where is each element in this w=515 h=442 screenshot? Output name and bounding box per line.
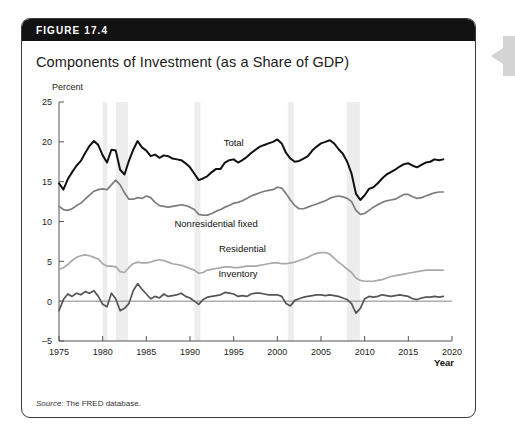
series-label-inventory: Inventory <box>218 268 257 279</box>
y-tick-label: 20 <box>42 137 52 147</box>
figure-number-bar: FIGURE 17.4 <box>22 19 475 41</box>
series-annotations-group: TotalNonresidential fixedResidentialInve… <box>174 137 265 279</box>
x-tick-labels-group: 1975198019851990199520002005201020152020 <box>49 347 462 357</box>
figure-source-note: Source: The FRED database. <box>36 399 141 408</box>
x-tick-label: 2000 <box>267 347 287 357</box>
x-tick-label: 1980 <box>93 347 113 357</box>
figure-number-label: FIGURE 17.4 <box>36 25 108 36</box>
investment-line-chart: TotalNonresidential fixedResidentialInve… <box>22 94 476 379</box>
y-tick-label: 15 <box>42 177 52 187</box>
source-text: The FRED database. <box>64 399 141 408</box>
y-tick-label: 10 <box>42 217 52 227</box>
x-tick-label: 2020 <box>442 347 462 357</box>
side-arrow-icon[interactable] <box>487 36 515 76</box>
source-prefix: Source: <box>36 399 64 408</box>
y-tick-label: 0 <box>47 297 52 307</box>
x-tick-label: 2005 <box>311 347 331 357</box>
y-tick-label: 25 <box>42 97 52 107</box>
figure-container: FIGURE 17.4 Components of Investment (as… <box>21 18 476 418</box>
x-tick-label: 1975 <box>49 347 69 357</box>
x-axis-title: Year <box>434 357 454 368</box>
y-tick-label: –5 <box>42 336 52 346</box>
series-label-total: Total <box>224 137 244 148</box>
y-tick-label: 5 <box>47 257 52 267</box>
y-tick-labels-group: 2520151050–5 <box>42 97 52 346</box>
x-tick-label: 1995 <box>224 347 244 357</box>
figure-title: Components of Investment (as a Share of … <box>36 54 475 70</box>
x-tick-label: 1990 <box>180 347 200 357</box>
chart-plot-area: TotalNonresidential fixedResidentialInve… <box>22 94 476 379</box>
series-label-nonresidential: Nonresidential fixed <box>174 218 257 229</box>
x-tick-label: 2010 <box>355 347 375 357</box>
y-axis-unit-label: Percent <box>52 82 475 92</box>
x-tick-label: 1985 <box>136 347 156 357</box>
x-tick-label: 2015 <box>398 347 418 357</box>
series-label-residential: Residential <box>219 243 266 254</box>
